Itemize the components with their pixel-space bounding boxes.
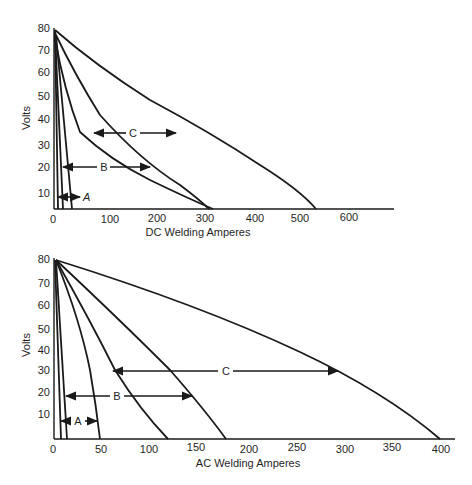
ac-x-tick: 400 bbox=[432, 443, 450, 455]
ac-x-tick: 350 bbox=[383, 441, 401, 453]
ac-y-axis-label: Volts bbox=[20, 333, 32, 357]
ac-curves bbox=[55, 260, 440, 439]
dc-range-label-a: A bbox=[82, 191, 90, 203]
ac-y-tick: 60 bbox=[38, 299, 50, 311]
dc-x-tick: 600 bbox=[340, 211, 358, 223]
dc-y-tick: 10 bbox=[38, 187, 50, 199]
dc-chart: 80 70 60 50 40 30 20 10 Volts 0 100 200 … bbox=[20, 22, 394, 238]
ac-x-tick: 50 bbox=[95, 443, 107, 455]
dc-y-tick-labels: 80 70 60 50 40 30 20 10 bbox=[38, 22, 50, 199]
ac-curve-c-min bbox=[56, 260, 226, 439]
ac-x-tick: 300 bbox=[336, 443, 354, 455]
dc-y-tick: 20 bbox=[38, 161, 50, 173]
ac-y-tick: 20 bbox=[38, 386, 50, 398]
dc-curve-c-min bbox=[55, 33, 209, 209]
ac-chart: 80 70 60 50 40 30 20 10 Volts 0 50 100 1… bbox=[20, 253, 455, 469]
ac-range-arrows: A B C bbox=[61, 365, 338, 427]
ac-y-tick: 50 bbox=[38, 323, 50, 335]
dc-range-arrows: A B C bbox=[58, 127, 176, 203]
ac-x-axis-label: AC Welding Amperes bbox=[196, 457, 301, 469]
dc-y-tick: 40 bbox=[38, 113, 50, 125]
dc-y-tick: 80 bbox=[38, 22, 50, 34]
dc-y-tick: 60 bbox=[38, 66, 50, 78]
dc-x-tick: 100 bbox=[101, 213, 119, 225]
chart-canvas: 80 70 60 50 40 30 20 10 Volts 0 100 200 … bbox=[0, 0, 472, 485]
ac-y-tick: 30 bbox=[38, 364, 50, 376]
dc-range-label-b: B bbox=[100, 161, 107, 173]
dc-curve-c-max bbox=[55, 30, 316, 209]
welding-volt-ampere-figure: 80 70 60 50 40 30 20 10 Volts 0 100 200 … bbox=[0, 0, 472, 485]
ac-y-tick: 80 bbox=[38, 253, 50, 265]
ac-x-tick: 100 bbox=[140, 443, 158, 455]
ac-range-label-b: B bbox=[113, 390, 120, 402]
dc-x-tick-labels: 0 100 200 300 400 500 600 bbox=[50, 211, 358, 225]
ac-curve-b-max bbox=[56, 260, 168, 439]
dc-y-tick: 50 bbox=[38, 90, 50, 102]
dc-x-tick: 0 bbox=[50, 213, 56, 225]
dc-range-label-c: C bbox=[129, 127, 137, 139]
ac-x-tick: 200 bbox=[240, 443, 258, 455]
ac-y-tick: 40 bbox=[38, 344, 50, 356]
dc-y-tick: 70 bbox=[38, 44, 50, 56]
ac-x-tick: 150 bbox=[187, 441, 205, 453]
ac-y-tick: 10 bbox=[38, 408, 50, 420]
ac-curve-c-max bbox=[56, 260, 440, 439]
ac-range-label-a: A bbox=[74, 415, 82, 427]
dc-curves bbox=[55, 30, 316, 209]
ac-curve-a-outer bbox=[56, 260, 100, 439]
dc-x-axis-label: DC Welding Amperes bbox=[146, 226, 251, 238]
dc-x-tick: 400 bbox=[246, 212, 264, 224]
dc-x-tick: 500 bbox=[291, 212, 309, 224]
ac-x-tick-labels: 0 50 100 150 200 250 300 350 400 bbox=[50, 441, 450, 455]
ac-x-tick: 250 bbox=[288, 441, 306, 453]
ac-range-label-c: C bbox=[222, 365, 230, 377]
ac-y-tick: 70 bbox=[38, 277, 50, 289]
dc-y-axis-label: Volts bbox=[20, 106, 32, 130]
dc-curve-b-max bbox=[55, 38, 213, 209]
dc-x-tick: 200 bbox=[148, 212, 166, 224]
ac-x-tick: 0 bbox=[50, 443, 56, 455]
ac-y-tick-labels: 80 70 60 50 40 30 20 10 bbox=[38, 253, 50, 420]
dc-y-tick: 30 bbox=[38, 139, 50, 151]
dc-x-tick: 300 bbox=[196, 212, 214, 224]
